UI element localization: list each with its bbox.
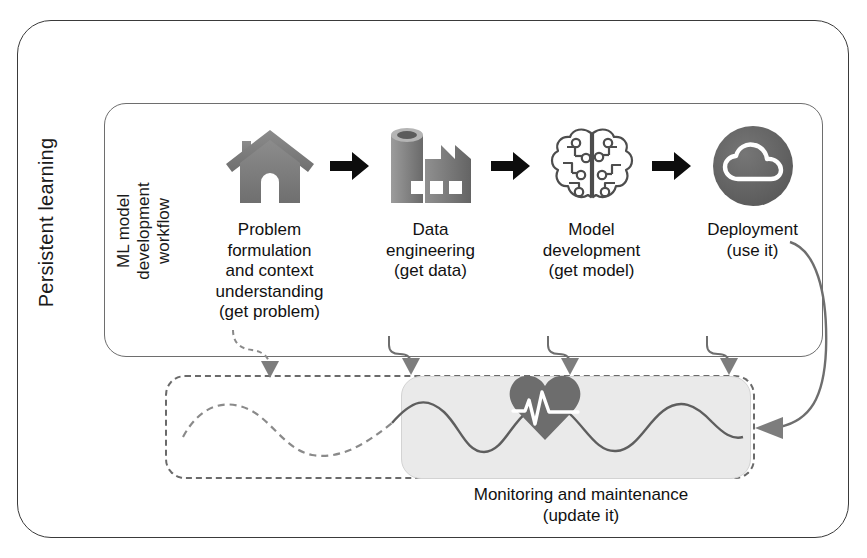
right-arrow-icon <box>328 118 372 214</box>
step-deployment-label: Deployment (use it) <box>707 220 798 261</box>
right-arrow-icon <box>489 118 533 214</box>
label-line: (use it) <box>707 241 798 262</box>
factory-icon <box>385 118 477 214</box>
label-line: formulation <box>216 241 324 262</box>
step-model-development-label: Model development (get model) <box>543 220 640 282</box>
label-line: engineering <box>386 241 475 262</box>
ml-workflow-frame: ML model development workflow <box>104 103 823 357</box>
label-line: understanding <box>216 282 324 303</box>
workflow-label-line-3: workflow <box>154 126 174 336</box>
workflow-label-line-1: ML model <box>114 126 134 336</box>
step-data-engineering[interactable]: Data engineering (get data) <box>372 118 489 282</box>
label-line: Deployment <box>707 220 798 241</box>
label-line: Data <box>386 220 475 241</box>
label-line: Problem <box>216 220 324 241</box>
ml-workflow-label: ML model development workflow <box>114 126 174 336</box>
workflow-steps: Problem formulation and context understa… <box>211 118 811 354</box>
monitoring-panel <box>401 376 751 479</box>
label-line: and context <box>216 261 324 282</box>
label-line: (get data) <box>386 261 475 282</box>
caption-line: Monitoring and maintenance <box>331 484 831 505</box>
step-deployment[interactable]: Deployment (use it) <box>694 118 811 261</box>
brain-circuit-icon <box>547 118 637 214</box>
step-model-development[interactable]: Model development (get model) <box>533 118 650 282</box>
monitoring-caption: Monitoring and maintenance (update it) <box>331 484 831 526</box>
label-line: Model <box>543 220 640 241</box>
label-line: development <box>543 241 640 262</box>
cloud-circle-icon <box>710 118 796 214</box>
house-icon <box>224 118 316 214</box>
label-line: (get model) <box>543 261 640 282</box>
persistent-learning-label: Persistent learning <box>35 103 58 343</box>
right-arrow-icon <box>650 118 694 214</box>
workflow-label-line-2: development <box>134 126 154 336</box>
label-line: (get problem) <box>216 302 324 323</box>
step-problem-formulation-label: Problem formulation and context understa… <box>216 220 324 323</box>
caption-line: (update it) <box>331 505 831 526</box>
step-data-engineering-label: Data engineering (get data) <box>386 220 475 282</box>
step-problem-formulation[interactable]: Problem formulation and context understa… <box>211 118 328 323</box>
